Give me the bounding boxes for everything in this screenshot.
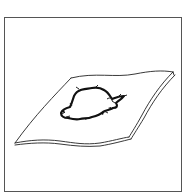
sheet-outline <box>15 71 175 146</box>
sheet-illustration <box>0 0 186 193</box>
stain-icon <box>61 85 127 120</box>
